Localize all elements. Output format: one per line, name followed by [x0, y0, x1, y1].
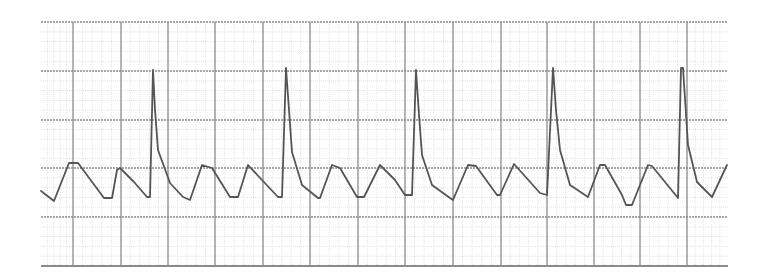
ecg-trace-layer [41, 68, 727, 205]
ecg-trace-line [41, 68, 727, 205]
ecg-chart-canvas [0, 0, 766, 280]
major-grid [41, 22, 728, 266]
ecg-strip-chart [0, 0, 766, 280]
minor-grid [41, 22, 728, 266]
